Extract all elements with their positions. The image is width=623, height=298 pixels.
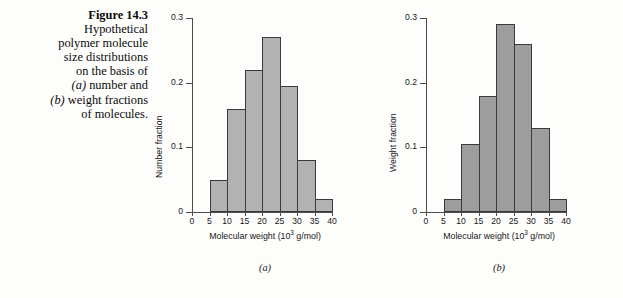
x-axis-label-b-tail: g/mol) [528,231,555,241]
y-tick-a-2: 0.2 [186,83,192,84]
x-axis-label-a: Molecular weight (103 g/mol) [170,229,360,241]
x-tick-label-b-8: 40 [561,216,571,226]
plot-area-a: 00.10.20.30510152025303540 [170,18,332,220]
bar-b-35-40 [549,199,568,212]
x-tick-label-b-1: 5 [441,216,446,226]
caption-line-4: on the basis of [76,64,148,78]
bar-series-a [192,18,332,212]
bar-b-10-15 [461,144,480,212]
bar-a-5-10 [210,180,229,212]
y-tick-a-1: 0.1 [186,147,192,148]
caption-line-6: weight fractions [65,93,148,107]
figure-caption: Figure 14.3 Hypothetical polymer molecul… [8,8,148,121]
panel-letter-b: (b) [404,262,594,273]
y-tick-label-a-1: 0.1 [171,141,183,151]
x-tick-label-a-5: 25 [275,216,285,226]
y-tick-b-1: 0.1 [420,147,426,148]
caption-line-3: size distributions [64,50,148,64]
x-tick-label-a-1: 5 [207,216,212,226]
x-axis-label-b-main: Molecular weight (10 [443,231,524,241]
x-axis-label-a-tail: g/mol) [294,231,321,241]
x-tick-label-a-8: 40 [327,216,337,226]
bar-a-25-30 [280,86,299,212]
bar-series-b [426,18,566,212]
caption-line-1: Hypothetical [84,22,148,36]
y-tick-label-a-3: 0.3 [171,12,183,22]
chart-panel-b: Weight fraction 00.10.20.305101520253035… [386,0,618,298]
bar-b-25-30 [514,44,533,212]
x-axis-label-a-main: Molecular weight (10 [209,231,290,241]
bar-a-20-25 [262,37,281,212]
x-tick-label-b-7: 35 [544,216,554,226]
caption-line-2: polymer molecule [58,36,148,50]
y-tick-label-b-1: 0.1 [405,141,417,151]
y-tick-b-3: 0.3 [420,18,426,19]
x-tick-label-a-0: 0 [190,216,195,226]
y-axis-label-a: Number fraction [154,115,164,178]
y-tick-label-b-2: 0.2 [405,77,417,87]
x-tick-label-a-7: 35 [310,216,320,226]
y-axis-label-b: Weight fraction [388,113,398,172]
chart-panel-a: Number fraction 00.10.20.305101520253035… [148,0,376,298]
plot-area-b: 00.10.20.30510152025303540 [404,18,566,220]
x-tick-label-a-3: 15 [240,216,250,226]
x-tick-label-b-2: 10 [456,216,466,226]
x-axis-label-b: Molecular weight (103 g/mol) [404,229,594,241]
x-tick-label-a-6: 30 [292,216,302,226]
y-tick-label-a-2: 0.2 [171,77,183,87]
panel-letter-a: (a) [170,262,360,273]
x-tick-label-b-4: 20 [491,216,501,226]
bar-a-30-35 [297,160,316,212]
bar-a-10-15 [227,109,246,212]
bar-b-15-20 [479,96,498,212]
bar-a-15-20 [245,70,264,212]
caption-marker-a: (a) [72,78,86,92]
bar-b-5-10 [444,199,463,212]
x-tick-label-a-4: 20 [257,216,267,226]
caption-marker-b: (b) [50,93,64,107]
x-tick-label-b-0: 0 [424,216,429,226]
figure-number: Figure 14.3 [88,8,148,22]
x-tick-label-b-5: 25 [509,216,519,226]
y-tick-label-a-0: 0 [178,206,183,216]
caption-line-5: number and [86,78,148,92]
x-tick-label-b-6: 30 [526,216,536,226]
caption-line-7: of molecules. [81,107,148,121]
x-tick-label-b-3: 15 [474,216,484,226]
y-tick-a-3: 0.3 [186,18,192,19]
bar-b-30-35 [531,128,550,212]
y-tick-b-2: 0.2 [420,83,426,84]
y-tick-label-b-0: 0 [412,206,417,216]
y-tick-label-b-3: 0.3 [405,12,417,22]
x-tick-label-a-2: 10 [222,216,232,226]
bar-a-35-40 [315,199,334,212]
bar-b-20-25 [496,24,515,212]
